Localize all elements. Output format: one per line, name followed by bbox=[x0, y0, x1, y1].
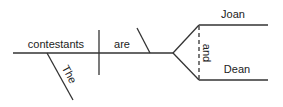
predicate-slant bbox=[137, 28, 150, 53]
word-subject: contestants bbox=[28, 38, 85, 50]
fork-upper bbox=[173, 25, 199, 53]
word-conjunction: and bbox=[201, 44, 213, 62]
word-verb: are bbox=[114, 38, 130, 50]
sentence-diagram: contestants are The Joan Dean and bbox=[0, 0, 283, 107]
word-predicate-1: Joan bbox=[221, 8, 245, 20]
word-predicate-2: Dean bbox=[224, 63, 250, 75]
fork-lower bbox=[173, 53, 199, 80]
